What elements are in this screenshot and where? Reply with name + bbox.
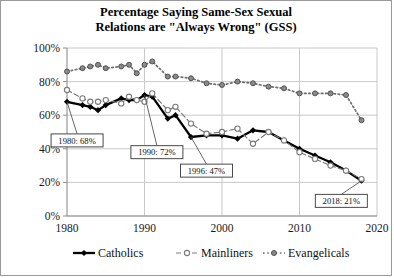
- annotation-label: 1996: 47%: [188, 166, 225, 176]
- data-point: [250, 141, 255, 146]
- data-point: [344, 93, 349, 98]
- data-point: [119, 64, 124, 69]
- data-point: [150, 91, 155, 96]
- data-point: [64, 87, 69, 92]
- annotation-a1996: 1996: 47%: [181, 164, 233, 177]
- annotation-label: 1990: 72%: [138, 147, 175, 157]
- annotation-a1980: 1980: 68%: [51, 134, 103, 147]
- series-evangelicals: [65, 59, 365, 123]
- x-axis-tick-label: 1980: [56, 222, 79, 234]
- data-point: [266, 129, 271, 134]
- annotation-leader-line: [191, 137, 207, 164]
- data-point: [103, 97, 108, 102]
- data-point: [219, 129, 224, 134]
- y-axis-tick-label: 20%: [39, 176, 61, 188]
- data-point: [281, 138, 286, 143]
- data-point: [235, 79, 240, 84]
- plot-area: 0%20%40%60%80%100%1980199020002010202019…: [1, 1, 393, 277]
- annotation-label: 2018: 21%: [323, 196, 360, 206]
- data-point: [65, 69, 70, 74]
- data-point: [126, 94, 131, 99]
- data-point: [297, 91, 302, 96]
- chart-svg: 0%20%40%60%80%100%1980199020002010202019…: [1, 1, 393, 277]
- legend-marker: [184, 250, 189, 255]
- x-axis-tick-label: 2010: [288, 222, 311, 234]
- data-point: [343, 168, 348, 173]
- data-point: [173, 104, 178, 109]
- data-point: [88, 99, 93, 104]
- annotation-label: 1980: 68%: [58, 136, 95, 146]
- data-point: [165, 74, 170, 79]
- data-point: [204, 131, 209, 136]
- chart-legend: CatholicsMainlinersEvangelicals: [73, 246, 350, 260]
- data-point: [359, 118, 364, 123]
- data-point: [134, 71, 139, 76]
- series-line: [67, 61, 362, 120]
- data-point: [251, 81, 256, 86]
- data-point: [297, 150, 302, 155]
- annotation-leader-line: [145, 95, 157, 146]
- data-point: [80, 66, 85, 71]
- legend-marker: [272, 251, 277, 256]
- data-point: [142, 62, 147, 67]
- data-point: [312, 156, 317, 161]
- data-point: [266, 84, 271, 89]
- annotation-leader-line: [67, 102, 77, 134]
- data-point: [189, 76, 194, 81]
- x-axis-tick-label: 2020: [366, 222, 389, 234]
- data-point: [80, 96, 85, 101]
- x-axis-tick-label: 2000: [211, 222, 234, 234]
- legend-label[interactable]: Mainliners: [201, 246, 253, 260]
- data-point: [235, 126, 240, 131]
- y-axis-tick-label: 100%: [33, 42, 60, 54]
- data-point: [328, 91, 333, 96]
- data-point: [95, 99, 100, 104]
- data-point: [119, 101, 124, 106]
- legend-marker: [81, 250, 87, 256]
- data-point: [96, 62, 101, 67]
- annotation-a2018: 2018: 21%: [315, 194, 367, 207]
- data-point: [127, 62, 132, 67]
- y-axis-tick-label: 80%: [39, 76, 61, 88]
- legend-label[interactable]: Evangelicals: [288, 246, 350, 260]
- data-point: [103, 66, 108, 71]
- x-axis-tick-label: 1990: [133, 222, 156, 234]
- data-point: [79, 102, 85, 108]
- legend-label[interactable]: Catholics: [98, 246, 144, 260]
- data-point: [328, 163, 333, 168]
- data-point: [204, 81, 209, 86]
- data-point: [165, 108, 170, 113]
- data-point: [313, 91, 318, 96]
- y-axis-tick-label: 0%: [45, 210, 61, 222]
- annotation-a1990: 1990: 72%: [131, 146, 183, 159]
- data-point: [173, 74, 178, 79]
- y-axis-tick-label: 60%: [39, 109, 61, 121]
- data-point: [220, 82, 225, 87]
- chart-card: Percentage Saying Same-Sex Sexual Relati…: [0, 0, 392, 276]
- data-point: [134, 97, 139, 102]
- data-point: [282, 86, 287, 91]
- data-point: [150, 59, 155, 64]
- data-point: [88, 64, 93, 69]
- data-point: [188, 121, 193, 126]
